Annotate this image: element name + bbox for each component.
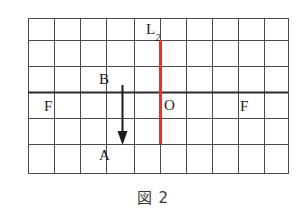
lens-label-L2: L2 <box>146 22 160 40</box>
focal-point-label-right: F <box>240 99 248 114</box>
point-label-origin: O <box>164 98 175 113</box>
figure-container: L2 B A O F F 図 2 <box>0 0 306 217</box>
point-label-b: B <box>99 72 109 87</box>
focal-point-label-left: F <box>44 99 52 114</box>
object-arrow <box>118 85 128 145</box>
object-arrow-head <box>118 131 128 145</box>
point-label-a: A <box>99 148 110 163</box>
lens-label-letter: L <box>146 21 155 37</box>
lens-label-subscript: 2 <box>155 32 160 43</box>
figure-caption: 図 2 <box>0 186 306 207</box>
